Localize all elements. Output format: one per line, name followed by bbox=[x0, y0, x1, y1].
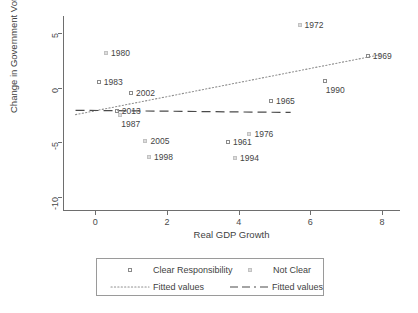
x-axis-title: Real GDP Growth bbox=[63, 229, 400, 240]
x-axis-line bbox=[63, 210, 400, 211]
data-point-1998[interactable] bbox=[147, 155, 151, 159]
data-point-label-1990: 1990 bbox=[326, 85, 345, 95]
legend-item-not-clear[interactable]: Not Clear bbox=[225, 264, 323, 276]
data-point-label-1965: 1965 bbox=[276, 96, 295, 106]
plot-area: -10-505 02468 19832013200219611965199019… bbox=[63, 16, 400, 210]
dotted-line-icon bbox=[111, 281, 149, 293]
data-point-2002[interactable] bbox=[129, 91, 133, 95]
data-point-label-1961: 1961 bbox=[233, 137, 252, 147]
data-point-label-2002: 2002 bbox=[136, 88, 155, 98]
x-tick-label: 0 bbox=[93, 217, 98, 227]
data-point-label-1998: 1998 bbox=[154, 152, 173, 162]
data-point-1976[interactable] bbox=[247, 132, 251, 136]
data-point-label-1983: 1983 bbox=[104, 77, 123, 87]
scatter-chart-figure: Change in Government Vote Real GDP Growt… bbox=[0, 0, 418, 313]
y-tick-label: -10 bbox=[50, 197, 60, 210]
data-point-1969[interactable] bbox=[366, 54, 370, 58]
x-tick-label: 2 bbox=[164, 217, 169, 227]
legend-item-clear-responsibility[interactable]: Clear Responsibility bbox=[97, 264, 225, 276]
data-point-label-2005: 2005 bbox=[150, 136, 169, 146]
data-point-label-2013: 2013 bbox=[122, 106, 141, 116]
x-tick-label: 8 bbox=[380, 217, 385, 227]
legend-row: Clear Responsibility Not Clear bbox=[97, 261, 323, 278]
data-point-1987[interactable] bbox=[118, 113, 122, 117]
x-tick bbox=[95, 211, 96, 215]
y-tick-label: -5 bbox=[50, 142, 60, 150]
legend-label: Clear Responsibility bbox=[153, 265, 233, 275]
data-point-1965[interactable] bbox=[269, 99, 273, 103]
x-tick bbox=[239, 211, 240, 215]
open-square-icon bbox=[111, 264, 149, 276]
x-tick bbox=[382, 211, 383, 215]
y-axis-title: Change in Government Vote bbox=[8, 0, 19, 113]
data-point-2005[interactable] bbox=[143, 139, 147, 143]
x-tick-label: 4 bbox=[236, 217, 241, 227]
data-point-label-1972: 1972 bbox=[305, 20, 324, 30]
fitted-line bbox=[76, 110, 291, 112]
y-tick-label: 0 bbox=[50, 88, 60, 93]
data-point-1972[interactable] bbox=[298, 23, 302, 27]
data-point-1980[interactable] bbox=[104, 51, 108, 55]
legend-item-fitted-values-clear[interactable]: Fitted values bbox=[97, 281, 224, 293]
small-square-icon bbox=[231, 264, 269, 276]
legend-item-fitted-values-not-clear[interactable]: Fitted values bbox=[224, 281, 323, 293]
legend-label: Fitted values bbox=[272, 282, 323, 292]
data-point-label-1980: 1980 bbox=[111, 48, 130, 58]
legend-label: Not Clear bbox=[273, 265, 311, 275]
data-point-label-1994: 1994 bbox=[240, 153, 259, 163]
x-tick-label: 6 bbox=[308, 217, 313, 227]
chart-legend: Clear Responsibility Not Clear Fitted va… bbox=[96, 258, 324, 296]
y-tick-label: 5 bbox=[50, 33, 60, 38]
data-point-1983[interactable] bbox=[97, 80, 101, 84]
data-point-label-1969: 1969 bbox=[373, 51, 392, 61]
x-tick bbox=[167, 211, 168, 215]
legend-label: Fitted values bbox=[153, 282, 204, 292]
data-point-1961[interactable] bbox=[226, 140, 230, 144]
data-point-1990[interactable] bbox=[323, 79, 327, 83]
data-point-label-1987: 1987 bbox=[121, 119, 140, 129]
fitted-lines bbox=[63, 16, 400, 210]
data-point-1994[interactable] bbox=[233, 156, 237, 160]
dashed-line-icon bbox=[230, 281, 268, 293]
x-tick bbox=[310, 211, 311, 215]
legend-row: Fitted values Fitted values bbox=[97, 278, 323, 295]
data-point-label-1976: 1976 bbox=[254, 129, 273, 139]
